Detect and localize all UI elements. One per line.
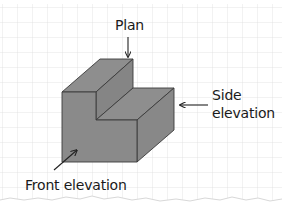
label-side-line1: Side bbox=[212, 87, 241, 103]
diagram-canvas: Plan Side elevation Front elevation bbox=[0, 0, 282, 210]
label-side-line2: elevation bbox=[212, 105, 275, 121]
label-plan: Plan bbox=[115, 17, 144, 33]
label-front-elevation: Front elevation bbox=[25, 177, 127, 193]
